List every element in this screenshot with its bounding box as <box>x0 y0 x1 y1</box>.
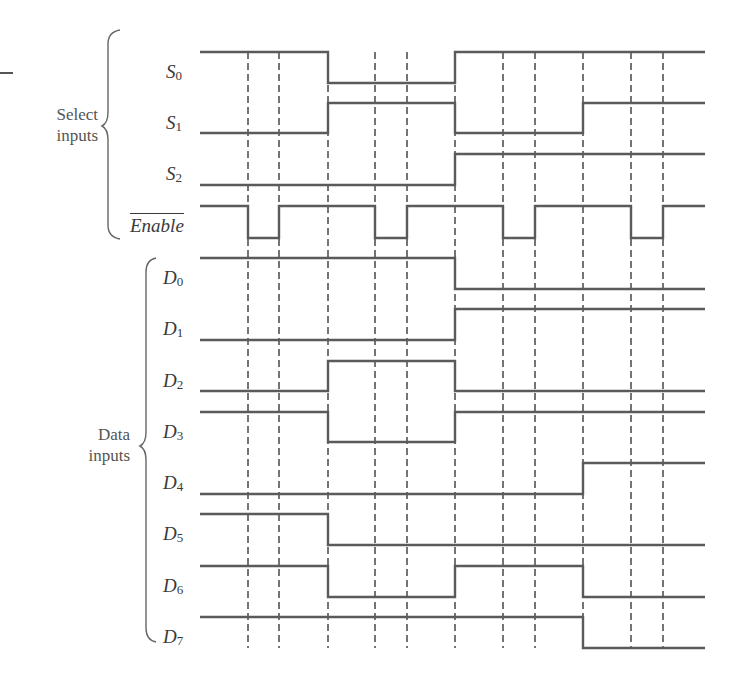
signal-label-d5: D5 <box>163 524 183 543</box>
waveform-s0 <box>200 52 705 83</box>
data-inputs-label: Data inputs <box>60 424 130 466</box>
signal-label-d6: D6 <box>163 576 183 595</box>
waveform-d5 <box>200 514 705 545</box>
signal-label-s1: S1 <box>166 113 182 132</box>
signal-label-d4: D4 <box>163 473 183 492</box>
waveform-s1 <box>200 103 705 133</box>
waveform-s2 <box>200 154 705 185</box>
waveform-d2 <box>200 361 705 391</box>
signal-label-d3: D3 <box>163 422 183 441</box>
signal-label-d1: D1 <box>163 319 183 338</box>
signal-label-d2: D2 <box>163 371 183 390</box>
signal-label-enable: Enable <box>130 216 184 235</box>
waveform-enable <box>200 206 705 238</box>
waveform-d4 <box>200 463 705 494</box>
data-label-line1: Data <box>60 424 130 445</box>
signal-label-s2: S2 <box>166 164 182 183</box>
signal-label-s0: S0 <box>166 62 182 81</box>
timing-diagram <box>0 0 742 697</box>
waveform-d7 <box>200 617 705 648</box>
signal-label-d7: D7 <box>163 627 183 646</box>
waveform-d6 <box>200 566 705 597</box>
waveform-d1 <box>200 309 705 340</box>
select-label-line2: inputs <box>30 125 98 146</box>
signal-label-d0: D0 <box>163 268 183 287</box>
select-brace-icon <box>102 30 120 239</box>
waveforms <box>200 52 705 648</box>
waveform-d3 <box>200 412 705 442</box>
time-markers <box>248 52 663 648</box>
select-label-line1: Select <box>30 104 98 125</box>
select-inputs-label: Select inputs <box>30 104 98 146</box>
waveform-d0 <box>200 258 705 289</box>
data-brace-icon <box>140 258 156 642</box>
data-label-line2: inputs <box>60 445 130 466</box>
